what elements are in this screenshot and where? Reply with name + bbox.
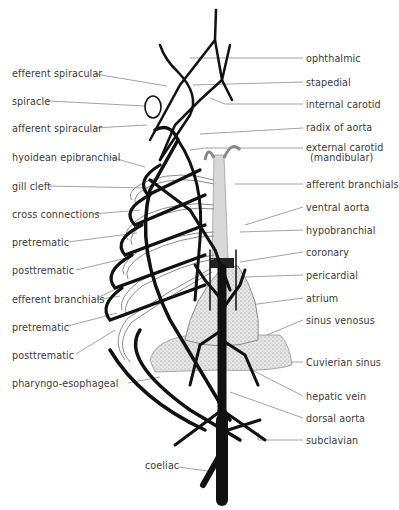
label-pretrematic-2: pretrematic: [12, 322, 69, 333]
label-hyoidean-epibranchial: hyoidean epibranchial: [12, 152, 121, 163]
label-ophthalmic: ophthalmic: [306, 53, 361, 64]
label-pretrematic-1: pretrematic: [12, 237, 69, 248]
label-internal-carotid: internal carotid: [306, 99, 381, 110]
label-efferent-spiracular: efferent spiracular: [12, 68, 102, 79]
label-hypobranchial: hypobranchial: [306, 225, 376, 236]
label-atrium: atrium: [306, 293, 338, 304]
spiracle: [145, 96, 161, 118]
label-stapedial: stapedial: [306, 77, 351, 88]
label-pharyngo-esophageal: pharyngo-esophageal: [12, 378, 119, 389]
label-coeliac: coeliac: [145, 460, 179, 471]
label-ventral-aorta: ventral aorta: [306, 202, 370, 213]
label-posttrematic-1: posttrematic: [12, 265, 74, 276]
label-sinus-venosus: sinus venosus: [306, 315, 375, 326]
label-radix-of-aorta: radix of aorta: [306, 122, 372, 133]
label-spiracle: spiracle: [12, 96, 50, 107]
label-gill-cleft: gill cleft: [12, 181, 51, 192]
label-hepatic-vein: hepatic vein: [306, 391, 366, 402]
label-afferent-spiracular: afferent spiracular: [12, 123, 102, 134]
label-mandibular: (mandibular): [310, 153, 373, 163]
label-cuvierian-sinus: Cuvierian sinus: [306, 357, 381, 368]
label-cross-connections: cross connections: [12, 209, 99, 220]
label-pericardial: pericardial: [306, 270, 358, 281]
aorta-trunk: [175, 250, 265, 500]
label-subclavian: subclavian: [306, 435, 358, 446]
label-efferent-branchials: efferent branchials: [12, 294, 105, 305]
label-posttrematic-2: posttrematic: [12, 350, 74, 361]
ventral-aorta-conus: [212, 155, 228, 260]
label-dorsal-aorta: dorsal aorta: [306, 413, 365, 424]
label-afferent-branchials: afferent branchials: [306, 179, 399, 190]
label-coronary: coronary: [306, 247, 349, 258]
ophthalmic: [150, 10, 216, 140]
